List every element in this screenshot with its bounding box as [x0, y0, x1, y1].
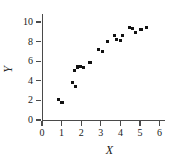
data-point	[131, 27, 134, 30]
data-point	[74, 85, 77, 88]
x-axis-title: X	[0, 143, 173, 158]
data-points-layer	[0, 0, 173, 163]
data-point	[121, 34, 124, 37]
data-point	[145, 26, 148, 29]
data-point	[73, 69, 76, 72]
data-point	[139, 28, 142, 31]
data-point	[106, 40, 109, 43]
y-axis-title: Y	[1, 58, 16, 82]
data-point	[60, 101, 63, 104]
data-point	[119, 39, 122, 42]
data-point	[115, 38, 118, 41]
data-point	[113, 34, 116, 37]
data-point	[97, 48, 100, 51]
data-point	[82, 66, 85, 69]
data-point	[88, 61, 91, 64]
data-point	[134, 31, 137, 34]
data-point	[101, 50, 104, 53]
scatter-plot-figure: 0246810 0123456 X Y	[0, 0, 173, 163]
